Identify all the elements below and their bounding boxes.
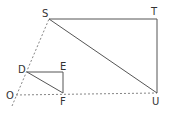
label-o: O: [6, 90, 14, 101]
label-t: T: [150, 6, 158, 17]
segment-d-f: [27, 72, 63, 93]
similar-triangles-diagram: S T U D E F O: [0, 0, 170, 114]
label-u: U: [152, 96, 159, 107]
label-d: D: [18, 64, 26, 75]
label-e: E: [60, 61, 66, 72]
label-s: S: [42, 8, 48, 19]
dashed-line-o-s: [12, 19, 49, 106]
segment-s-u: [49, 19, 157, 93]
label-f: F: [60, 96, 66, 107]
dashed-line-o-u: [16, 93, 157, 95]
